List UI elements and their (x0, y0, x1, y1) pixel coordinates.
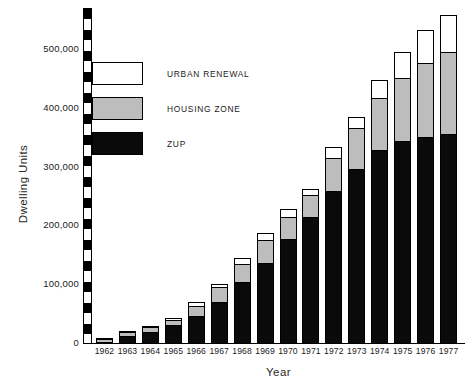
legend-label-urban: URBAN RENEWAL (167, 69, 250, 79)
bar-segment-housing-zone[interactable] (302, 195, 319, 218)
legend-item-urban[interactable]: URBAN RENEWAL (92, 60, 250, 87)
x-axis-tick-labels: 1962196319641965196619671968196919701971… (92, 346, 465, 362)
bar-segment-zup[interactable] (417, 137, 434, 344)
plot-area (92, 8, 465, 343)
bar-1965[interactable] (165, 318, 182, 343)
x-axis-title: Year (92, 366, 465, 378)
bar-1968[interactable] (234, 258, 251, 343)
bar-1966[interactable] (188, 302, 205, 343)
legend-item-zup[interactable]: ZUP (92, 130, 250, 157)
bar-segment-housing-zone[interactable] (371, 98, 388, 151)
bar-segment-zup[interactable] (165, 325, 182, 344)
legend-item-housing[interactable]: HOUSING ZONE (92, 95, 250, 122)
bar-segment-housing-zone[interactable] (211, 287, 228, 302)
bar-1974[interactable] (371, 80, 388, 343)
bar-1963[interactable] (119, 331, 136, 343)
bar-segment-zup[interactable] (394, 141, 411, 344)
bar-1975[interactable] (394, 52, 411, 343)
y-tick-label: 300,000 (11, 161, 79, 172)
legend-label-housing: HOUSING ZONE (167, 104, 241, 114)
bar-segment-zup[interactable] (440, 134, 457, 344)
bar-1973[interactable] (348, 117, 365, 343)
bar-segment-urban-renewal[interactable] (417, 30, 434, 64)
bar-segment-housing-zone[interactable] (325, 158, 342, 192)
y-tick-label: 100,000 (11, 278, 79, 289)
bar-segment-housing-zone[interactable] (280, 217, 297, 241)
y-tick-label: 500,000 (11, 43, 79, 54)
chart-legend: URBAN RENEWALHOUSING ZONEZUP (92, 60, 250, 165)
bar-segment-zup[interactable] (257, 263, 274, 344)
bar-segment-housing-zone[interactable] (348, 128, 365, 170)
bar-1972[interactable] (325, 147, 342, 343)
legend-swatch-housing (92, 97, 143, 120)
bar-segment-housing-zone[interactable] (257, 240, 274, 264)
bar-segment-zup[interactable] (371, 150, 388, 344)
bar-segment-zup[interactable] (188, 316, 205, 344)
bar-1962[interactable] (96, 338, 113, 343)
bar-segment-zup[interactable] (96, 342, 113, 344)
legend-swatch-urban (92, 62, 143, 85)
bar-segment-urban-renewal[interactable] (440, 15, 457, 53)
bar-segment-zup[interactable] (280, 239, 297, 344)
y-tick-label: 200,000 (11, 219, 79, 230)
bar-segment-urban-renewal[interactable] (371, 80, 388, 99)
bar-1977[interactable] (440, 15, 457, 343)
bar-segment-housing-zone[interactable] (234, 264, 251, 282)
bar-1970[interactable] (280, 209, 297, 343)
y-tick-label: 0 (11, 337, 79, 348)
bar-segment-urban-renewal[interactable] (394, 52, 411, 78)
bar-1964[interactable] (142, 326, 159, 343)
y-tick-label: 400,000 (11, 102, 79, 113)
bar-segment-zup[interactable] (142, 332, 159, 344)
y-axis-line (83, 8, 92, 344)
bar-segment-zup[interactable] (234, 282, 251, 344)
bar-segment-zup[interactable] (302, 217, 319, 344)
bar-segment-zup[interactable] (119, 336, 136, 344)
legend-label-zup: ZUP (167, 139, 186, 149)
bar-segment-housing-zone[interactable] (417, 63, 434, 138)
legend-swatch-zup (92, 132, 143, 155)
bar-1976[interactable] (417, 30, 434, 343)
bar-segment-zup[interactable] (348, 169, 365, 344)
bar-segment-housing-zone[interactable] (440, 52, 457, 135)
bar-1971[interactable] (302, 189, 319, 343)
bar-segment-housing-zone[interactable] (394, 78, 411, 143)
x-tick-label-1977: 1977 (434, 346, 464, 356)
bar-segment-zup[interactable] (325, 191, 342, 344)
bar-1969[interactable] (257, 233, 274, 343)
stacked-bar-chart: Dwelling Units 0100,000200,000300,000400… (0, 0, 467, 388)
bar-segment-zup[interactable] (211, 302, 228, 344)
y-axis-tick-labels: 0100,000200,000300,000400,000500,000 (0, 0, 79, 388)
bar-1967[interactable] (211, 284, 228, 343)
